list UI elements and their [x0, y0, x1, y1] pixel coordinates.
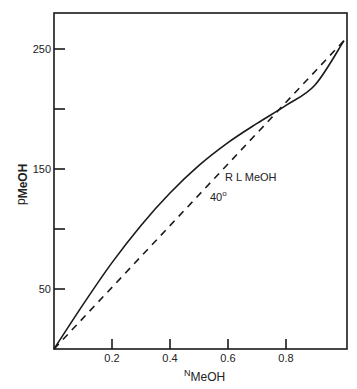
raoult-law-line [54, 41, 344, 349]
y-tick-label: 150 [33, 163, 51, 175]
x-tick-label: 0.6 [220, 352, 235, 364]
x-axis-ticks: 0.20.40.60.8 [104, 339, 293, 364]
annotation-rl-meoh: R L MeOH [225, 171, 277, 183]
chart: 50150250 0.20.40.60.8 R L MeOH 40o NMeOH… [0, 0, 357, 389]
y-tick-label: 50 [39, 283, 51, 295]
y-tick-label: 250 [33, 43, 51, 55]
x-axis-label: NMeOH [184, 368, 225, 384]
x-tick-label: 0.4 [162, 352, 177, 364]
plot-frame [54, 13, 347, 349]
x-tick-label: 0.8 [278, 352, 293, 364]
y-axis-label: pMeOH [14, 164, 30, 205]
annotation-temperature: 40o [210, 189, 227, 203]
y-axis-ticks: 50150250 [33, 43, 65, 295]
x-tick-label: 0.2 [104, 352, 119, 364]
